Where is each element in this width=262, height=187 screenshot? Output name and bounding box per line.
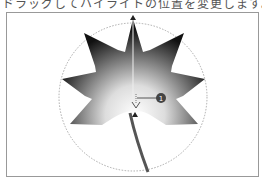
leaf-stem: [130, 113, 148, 172]
top-handle-icon[interactable]: [130, 15, 136, 20]
leaf-illustration: 1: [0, 0, 262, 187]
callout-number: 1: [159, 95, 163, 103]
bottom-handle-icon[interactable]: [132, 112, 138, 117]
